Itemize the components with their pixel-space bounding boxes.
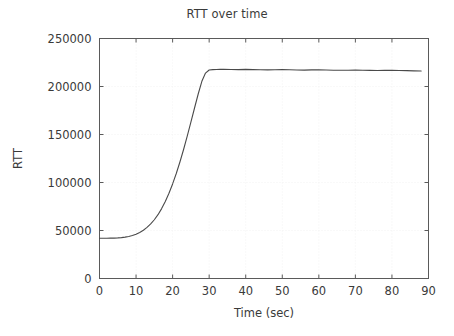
chart-plot-svg: 0102030405060708090 05000010000015000020…	[0, 0, 454, 336]
x-tick-label: 0	[96, 284, 103, 298]
y-tick-label: 50000	[55, 224, 92, 238]
y-tick-label: 0	[84, 272, 91, 286]
x-tick-label: 90	[421, 284, 436, 298]
y-tick-label: 250000	[48, 32, 92, 46]
x-tick-label: 60	[312, 284, 327, 298]
x-tick-label: 80	[385, 284, 400, 298]
plot-area-border	[100, 39, 429, 279]
y-tick-label: 200000	[48, 80, 92, 94]
grid-lines	[100, 39, 429, 279]
x-tick-label: 30	[202, 284, 217, 298]
y-axis-title: RTT	[11, 147, 25, 169]
x-tick-label: 20	[165, 284, 180, 298]
chart-container: RTT over time 0102030405060708090 050000…	[0, 0, 454, 336]
y-axis-tick-labels: 050000100000150000200000250000	[48, 32, 92, 286]
x-axis-title: Time (sec)	[233, 306, 294, 320]
x-tick-label: 10	[129, 284, 144, 298]
tick-marks	[100, 39, 429, 279]
data-series-line	[100, 69, 422, 238]
y-tick-label: 100000	[48, 176, 92, 190]
x-tick-label: 70	[348, 284, 363, 298]
y-tick-label: 150000	[48, 128, 92, 142]
x-tick-label: 40	[238, 284, 253, 298]
x-axis-tick-labels: 0102030405060708090	[96, 284, 436, 298]
x-tick-label: 50	[275, 284, 290, 298]
